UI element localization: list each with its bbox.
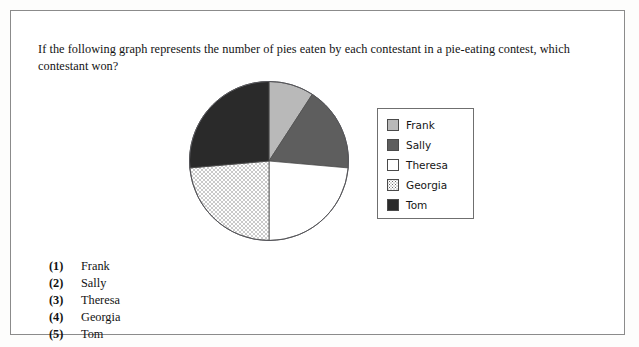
choice-option-5[interactable]: (5) Tom	[49, 327, 120, 344]
legend-item-georgia: Georgia	[387, 175, 473, 194]
legend-item-tom: Tom	[387, 195, 473, 214]
choice-label-3: Theresa	[81, 293, 120, 308]
choice-number-1: (1)	[49, 259, 81, 274]
legend-swatch-sally	[387, 139, 399, 151]
choice-label-4: Georgia	[81, 310, 120, 325]
pie-slice-georgia	[190, 161, 269, 241]
legend-item-theresa: Theresa	[387, 155, 473, 174]
choice-number-2: (2)	[49, 276, 81, 291]
choice-number-4: (4)	[49, 310, 81, 325]
scanned-page: If the following graph represents the nu…	[0, 0, 639, 347]
legend-swatch-theresa	[387, 159, 399, 171]
choice-option-2[interactable]: (2) Sally	[49, 276, 120, 293]
choice-label-2: Sally	[81, 276, 106, 291]
legend-label-tom: Tom	[406, 199, 427, 211]
choice-label-5: Tom	[81, 327, 103, 342]
pie-slices	[189, 82, 348, 241]
choice-label-1: Frank	[81, 259, 110, 274]
question-frame: If the following graph represents the nu…	[10, 10, 625, 335]
pie-chart	[179, 71, 359, 251]
legend-swatch-georgia	[387, 179, 399, 191]
choice-option-4[interactable]: (4) Georgia	[49, 310, 120, 327]
legend-swatch-frank	[387, 119, 399, 131]
pie-chart-svg	[179, 71, 359, 251]
pie-slice-tom	[189, 82, 269, 168]
legend-label-sally: Sally	[406, 139, 431, 151]
choice-option-1[interactable]: (1) Frank	[49, 259, 120, 276]
legend-item-sally: Sally	[387, 135, 473, 154]
legend-item-frank: Frank	[387, 115, 473, 134]
legend-swatch-tom	[387, 199, 399, 211]
choice-number-3: (3)	[49, 293, 81, 308]
legend-label-frank: Frank	[406, 119, 435, 131]
chart-legend: Frank Sally Theresa Georgia Tom	[377, 108, 474, 219]
legend-label-georgia: Georgia	[406, 179, 447, 191]
answer-choices: (1) Frank (2) Sally (3) Theresa (4) Geor…	[49, 259, 120, 344]
choice-number-5: (5)	[49, 327, 81, 342]
legend-label-theresa: Theresa	[406, 159, 448, 171]
choice-option-3[interactable]: (3) Theresa	[49, 293, 120, 310]
pie-slice-theresa	[269, 161, 348, 241]
